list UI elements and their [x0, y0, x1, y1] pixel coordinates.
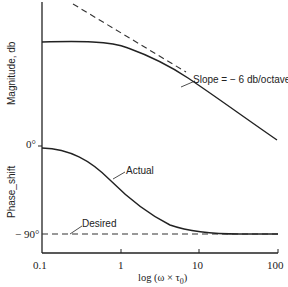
- phase-axis-label: Phase_shift: [6, 166, 17, 218]
- x-tick-10: 10: [192, 259, 203, 271]
- x-axis-label-close: ): [184, 272, 188, 283]
- magnitude-asymptote: [73, 4, 186, 72]
- x-axis-label-text: log (ω × τ: [138, 272, 180, 283]
- phase-actual-curve: [42, 148, 278, 234]
- phase-tick-0: 0°: [26, 138, 36, 150]
- bode-plot: [0, 0, 288, 287]
- actual-annotation: Actual: [126, 165, 154, 176]
- phase-tick-90: − 90°: [15, 228, 39, 240]
- x-axis-label: log (ω × τ0): [138, 272, 187, 286]
- x-tick-1: 1: [118, 259, 124, 271]
- x-tick-0.1: 0.1: [33, 259, 47, 271]
- desired-annotation: Desired: [82, 218, 116, 229]
- x-tick-100: 100: [267, 259, 284, 271]
- magnitude-axis-label: Magnitude, db: [6, 42, 17, 105]
- slope-annotation: Slope = − 6 db/octave: [193, 74, 288, 85]
